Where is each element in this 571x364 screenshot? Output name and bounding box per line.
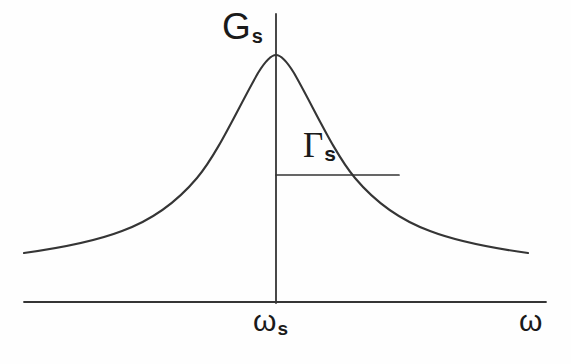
- spectral-peak-figure: Gs Γs ωs ω: [0, 0, 571, 364]
- center-frequency-label: ωs: [253, 306, 288, 338]
- linewidth-label: Γs: [303, 128, 336, 164]
- peak-amplitude-label: Gs: [222, 8, 263, 46]
- linewidth-subscript: s: [324, 142, 336, 165]
- center-frequency-subscript: s: [277, 318, 288, 339]
- center-frequency-symbol: ω: [253, 304, 276, 337]
- x-axis-symbol: ω: [519, 304, 542, 337]
- peak-amplitude-symbol: G: [222, 6, 251, 47]
- peak-amplitude-subscript: s: [252, 25, 263, 47]
- linewidth-symbol: Γ: [303, 126, 323, 165]
- x-axis-label: ω: [519, 306, 542, 336]
